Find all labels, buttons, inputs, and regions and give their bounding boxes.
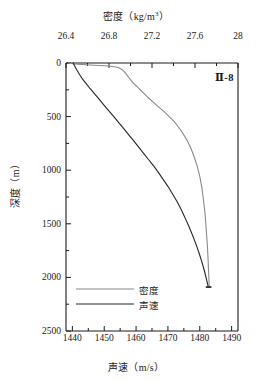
series-line-density	[68, 63, 209, 287]
legend-label: 密度	[139, 283, 159, 297]
legend-label: 声速	[139, 298, 159, 312]
bottom-axis-tick-label: 1450	[95, 333, 114, 343]
bottom-axis-tick-label: 1470	[158, 333, 177, 343]
left-axis-tick-label: 2500	[20, 326, 61, 336]
chart-figure: 密度（kg/m3） 声速（m/s） 深度（m） Ⅱ-8 26.426.827.2…	[0, 0, 272, 381]
left-axis-tick-label: 1500	[20, 219, 61, 229]
left-axis-tick-label: 500	[20, 112, 61, 122]
left-axis-tick-label: 2000	[20, 272, 61, 282]
top-axis-tick-label: 26.4	[58, 31, 75, 41]
top-axis-tick-label: 26.8	[101, 31, 118, 41]
bottom-axis-tick-label: 1440	[63, 333, 82, 343]
legend-sample-lines	[76, 289, 134, 304]
top-axis-tick-label: 27.2	[144, 31, 161, 41]
top-axis-tick-label: 28	[233, 31, 243, 41]
left-axis-tick-label: 0	[20, 58, 61, 68]
bottom-axis-tick-label: 1490	[222, 333, 241, 343]
top-axis-tick-label: 27.6	[187, 31, 204, 41]
bottom-axis-tick-label: 1480	[190, 333, 209, 343]
bottom-axis-tick-label: 1460	[127, 333, 146, 343]
series-line-sound-speed	[73, 63, 208, 287]
left-axis-tick-label: 1000	[20, 165, 61, 175]
data-lines	[68, 63, 212, 287]
